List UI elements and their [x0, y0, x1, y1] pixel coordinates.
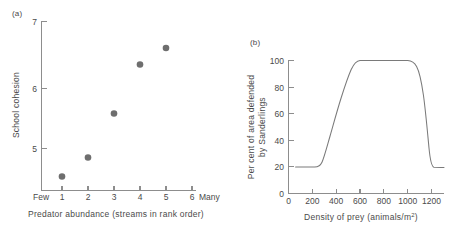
panel-a-x-axis-title: Predator abundance (streams in rank orde… — [28, 209, 204, 219]
panel-b-y-axis-title-line2: by Sanderlings — [257, 97, 267, 157]
data-point — [163, 45, 170, 52]
panel-b-line-chart: (b) 100 80 60 40 20 0 — [228, 0, 453, 227]
panel-a-xtick-3: 3 — [112, 192, 117, 202]
panel-b-x-axis-title: Density of prey (animals/m2) — [304, 212, 418, 223]
panel-b-ytick-0: 0 — [279, 189, 284, 199]
panel-a-xtick-4: 4 — [138, 192, 143, 202]
panel-b-xtick-600: 600 — [353, 196, 367, 206]
panel-b-xtick-400: 400 — [329, 196, 343, 206]
panel-b-ytick-80: 80 — [275, 83, 285, 93]
panel-a-data-points — [59, 45, 170, 180]
panel-a-xtick-1: 1 — [60, 192, 65, 202]
panel-a-xaxis-start-label: Few — [33, 192, 50, 202]
panel-b-plot: 100 80 60 40 20 0 0 200 400 600 800 1000… — [228, 0, 453, 227]
panel-a-ytick-6: 6 — [32, 84, 37, 94]
panel-a-xaxis-end-label: Many — [199, 192, 221, 202]
panel-b-ytick-100: 100 — [270, 56, 284, 66]
panel-a-scatter-chart: (a) 7 6 5 — [0, 0, 228, 227]
panel-b-label: (b) — [250, 38, 260, 47]
data-point — [59, 173, 66, 180]
panel-b-ytick-60: 60 — [275, 109, 285, 119]
panel-b-y-ticks — [289, 61, 294, 194]
panel-b-xtick-1000: 1000 — [398, 196, 417, 206]
data-point — [137, 61, 144, 68]
panel-b-ytick-40: 40 — [275, 136, 285, 146]
figure-container: (a) 7 6 5 — [0, 0, 453, 227]
panel-a-y-ticks — [42, 22, 47, 149]
panel-b-curve — [296, 61, 444, 168]
panel-a-xtick-5: 5 — [164, 192, 169, 202]
panel-b-x-ticks — [289, 189, 432, 194]
panel-b-xtick-1200: 1200 — [422, 196, 441, 206]
panel-b-xtick-200: 200 — [305, 196, 319, 206]
panel-a-y-axis-title: School cohesion — [11, 72, 21, 138]
panel-b-x-axis-title-base: Density of prey (animals/m — [304, 212, 411, 222]
panel-a-ytick-7: 7 — [32, 17, 37, 27]
data-point — [111, 110, 118, 117]
panel-a-ytick-5: 5 — [32, 144, 37, 154]
panel-b-x-axis-title-tail: ) — [415, 212, 418, 222]
data-point — [85, 154, 92, 161]
panel-b-xtick-800: 800 — [377, 196, 391, 206]
panel-b-y-axis-title-line1: Per cent of area defended — [246, 75, 256, 180]
panel-b-xtick-0: 0 — [286, 196, 291, 206]
panel-a-xtick-2: 2 — [86, 192, 91, 202]
panel-a-x-ticks — [42, 186, 193, 191]
panel-a-plot: 7 6 5 Few 1 2 3 4 5 6 Many School cohesi — [0, 0, 228, 227]
panel-a-label: (a) — [12, 9, 22, 18]
panel-b-ytick-20: 20 — [275, 162, 285, 172]
panel-a-xtick-6: 6 — [190, 192, 195, 202]
